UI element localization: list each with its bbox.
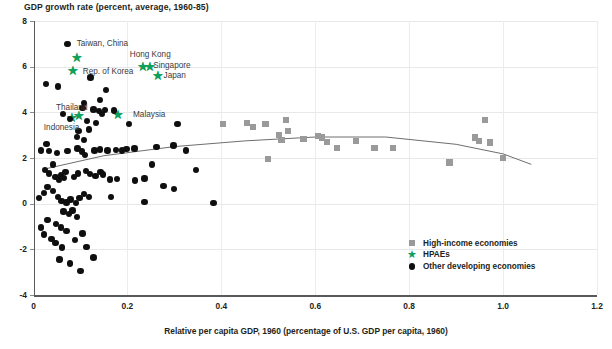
y-tick-label: 0 — [5, 198, 27, 208]
data-point-circle — [64, 41, 70, 47]
x-tick-label: 0.4 — [206, 301, 236, 311]
data-point-circle — [107, 176, 113, 182]
y-tick-label: -2 — [5, 244, 27, 254]
data-point-circle — [56, 256, 62, 262]
data-point-circle — [69, 207, 75, 213]
data-point-circle — [64, 148, 70, 154]
data-point-square — [353, 138, 359, 144]
legend-item-high-income: High-income economies — [406, 238, 535, 249]
data-point-circle — [46, 170, 52, 176]
data-point-circle — [75, 170, 81, 176]
y-tick-mark — [30, 112, 34, 113]
data-point-square — [476, 138, 482, 144]
data-point-circle — [38, 147, 44, 153]
data-point-square — [390, 145, 396, 151]
y-tick-mark — [30, 204, 34, 205]
data-point-square — [482, 117, 488, 123]
x-tick-label: 0.8 — [394, 301, 424, 311]
data-point-square — [487, 139, 493, 145]
x-axis-label: Relative per capita GDP, 1960 (percentag… — [0, 326, 612, 336]
data-point-circle — [79, 230, 85, 236]
data-point-circle — [86, 126, 92, 132]
point-annotation: Thailand — [56, 103, 87, 112]
y-tick-mark — [30, 295, 34, 296]
data-point-circle — [97, 146, 103, 152]
data-point-circle — [43, 141, 49, 147]
data-point-square — [283, 117, 289, 123]
data-point-circle — [77, 268, 83, 274]
data-point-circle — [141, 199, 147, 205]
y-tick-label: 6 — [5, 61, 27, 71]
data-point-circle — [111, 107, 117, 113]
data-point-circle — [160, 183, 166, 189]
y-tick-mark — [30, 21, 34, 22]
y-tick-mark — [30, 249, 34, 250]
legend-label-other-developing: Other developing economies — [423, 262, 535, 271]
point-annotation: Japan — [164, 71, 186, 80]
x-tick-label: 0.6 — [300, 301, 330, 311]
data-point-circle — [210, 200, 216, 206]
data-point-circle — [104, 147, 110, 153]
point-annotation: Malaysia — [133, 110, 165, 119]
x-tick-label: 1.2 — [582, 301, 612, 311]
x-tick-label: 1.0 — [488, 301, 518, 311]
data-point-circle — [52, 240, 58, 246]
x-axis-line — [34, 295, 598, 297]
x-tick-label: 0 — [19, 301, 49, 311]
legend-label-high-income: High-income economies — [423, 239, 518, 248]
data-point-circle — [171, 186, 177, 192]
legend-item-other-developing: Other developing economies — [406, 261, 535, 272]
data-point-circle — [41, 231, 47, 237]
data-point-square — [334, 145, 340, 151]
data-point-square — [285, 128, 291, 134]
circle-marker-icon — [406, 263, 418, 270]
chart-container: GDP growth rate (percent, average, 1960-… — [0, 0, 612, 349]
point-annotation: Taiwan, China — [77, 39, 128, 48]
trend-line — [43, 137, 531, 169]
legend-item-hpaes: ★ HPAEs — [406, 250, 535, 261]
y-tick-label: 8 — [5, 16, 27, 26]
y-tick-label: 2 — [5, 153, 27, 163]
x-tick-label: 0.2 — [112, 301, 142, 311]
data-point-circle — [50, 161, 56, 167]
data-point-circle — [67, 260, 73, 266]
data-point-star: ★ — [66, 64, 80, 77]
data-point-square — [250, 124, 256, 130]
data-point-circle — [132, 177, 138, 183]
data-point-circle — [55, 83, 61, 89]
data-point-circle — [63, 228, 69, 234]
data-point-circle — [59, 244, 65, 250]
data-point-square — [371, 145, 377, 151]
y-tick-mark — [30, 158, 34, 159]
data-point-square — [265, 156, 271, 162]
data-point-square — [500, 155, 506, 161]
data-point-circle — [62, 169, 68, 175]
data-point-circle — [149, 161, 155, 167]
point-annotation: Hong Kong — [130, 50, 171, 59]
data-point-circle — [153, 144, 159, 150]
data-point-circle — [108, 194, 114, 200]
legend-label-hpaes: HPAEs — [423, 250, 450, 259]
data-point-circle — [100, 171, 106, 177]
data-point-circle — [44, 217, 50, 223]
data-point-circle — [83, 244, 89, 250]
star-marker-icon: ★ — [406, 249, 418, 260]
y-tick-label: -4 — [5, 290, 27, 300]
data-point-circle — [126, 121, 132, 127]
data-point-square — [262, 121, 268, 127]
point-annotation: Indonesia — [44, 123, 80, 132]
y-axis-line — [34, 21, 36, 296]
point-annotation: Rep. of Korea — [83, 67, 134, 76]
y-tick-mark — [30, 67, 34, 68]
data-point-circle — [90, 254, 96, 260]
data-point-circle — [41, 190, 47, 196]
data-point-star: ★ — [70, 51, 84, 64]
chart-legend: High-income economies ★ HPAEs Other deve… — [406, 238, 535, 273]
data-point-circle — [123, 146, 129, 152]
point-annotation: Singapore — [153, 61, 190, 70]
data-point-circle — [38, 224, 44, 230]
data-point-circle — [131, 145, 137, 151]
y-tick-label: 4 — [5, 107, 27, 117]
data-point-square — [446, 159, 452, 165]
data-point-square — [278, 137, 284, 143]
